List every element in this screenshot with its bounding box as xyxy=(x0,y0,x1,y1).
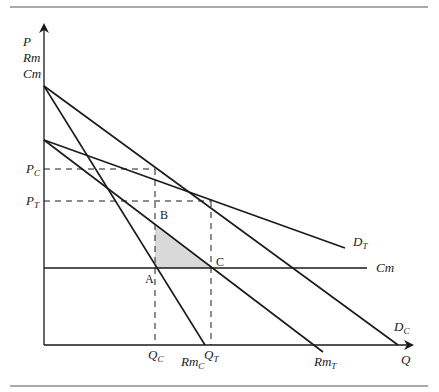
y-axis-label-cm: Cm xyxy=(23,66,41,81)
demand-t-line xyxy=(44,140,345,248)
demand-c-label: DC xyxy=(393,319,410,336)
economics-diagram: P Rm Cm Q PC PT QC QT DC DT RmC RmT Cm B… xyxy=(0,0,439,392)
mr-c-line xyxy=(44,86,205,345)
point-c-label: C xyxy=(216,255,224,269)
mr-t-label: RmT xyxy=(313,354,337,371)
x-axis-label: Q xyxy=(401,352,411,367)
qt-label: QT xyxy=(204,347,219,364)
pc-label: PC xyxy=(25,161,41,178)
shaded-triangle-abc xyxy=(155,226,211,268)
qc-label: QC xyxy=(148,347,164,364)
y-axis-label-rm: Rm xyxy=(22,50,40,65)
mr-c-label: RmC xyxy=(180,354,205,371)
demand-t-label: DT xyxy=(352,234,368,251)
y-axis-label-p: P xyxy=(22,34,31,49)
point-b-label: B xyxy=(160,208,168,222)
point-a-label: A xyxy=(145,272,154,286)
mc-label: Cm xyxy=(376,260,394,275)
pt-label: PT xyxy=(25,193,40,210)
mr-t-line xyxy=(44,140,323,352)
demand-c-line xyxy=(44,86,398,345)
